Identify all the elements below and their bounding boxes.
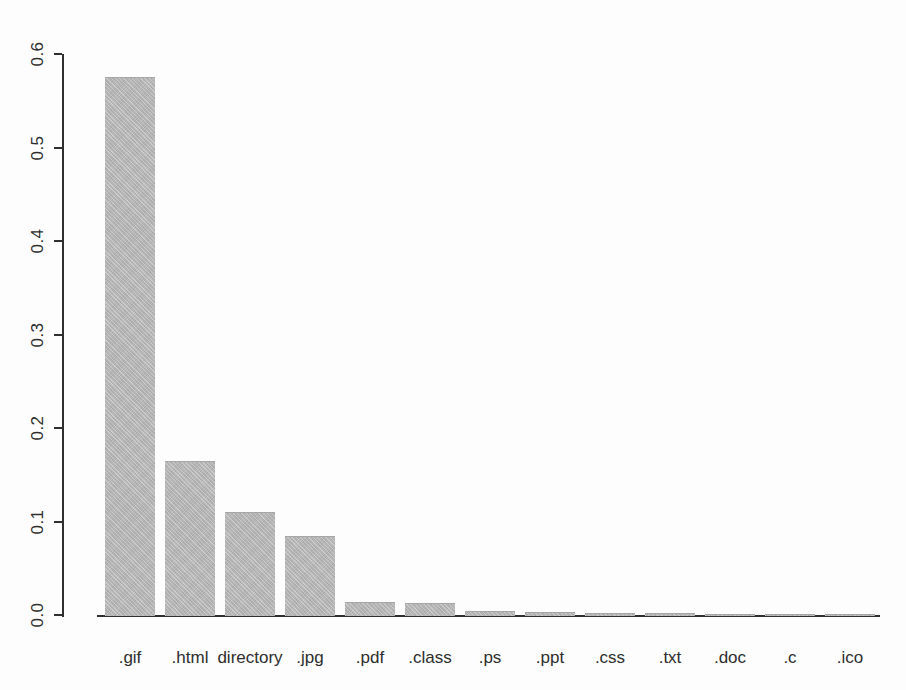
x-label-gif: .gif (119, 648, 142, 668)
y-tick-0.0 (54, 614, 62, 616)
bar-txt (645, 613, 695, 616)
y-tick-label: 0.1 (28, 509, 48, 534)
y-tick-label: 0.0 (28, 602, 48, 627)
bar-ico (825, 614, 875, 616)
bar-ppt (525, 612, 575, 616)
bar-html (165, 461, 215, 616)
y-tick-0.3 (54, 334, 62, 336)
bar-chart: 0.00.10.20.30.40.50.6 .gif.htmldirectory… (0, 0, 906, 690)
y-tick-label: 0.6 (28, 41, 48, 66)
x-label-ps: .ps (479, 648, 502, 668)
x-label-css: .css (595, 648, 625, 668)
x-label-doc: .doc (714, 648, 746, 668)
y-tick-label: 0.3 (28, 322, 48, 347)
bar-css (585, 613, 635, 616)
y-tick-label: 0.5 (28, 135, 48, 160)
bar-jpg (285, 536, 335, 616)
bar-class (405, 603, 455, 616)
bar-c (765, 614, 815, 616)
y-tick-0.2 (54, 427, 62, 429)
bar-directory (225, 512, 275, 616)
y-tick-0.6 (54, 53, 62, 55)
x-label-class: .class (408, 648, 451, 668)
x-label-c: .c (783, 648, 796, 668)
x-label-jpg: .jpg (296, 648, 323, 668)
y-tick-0.1 (54, 521, 62, 523)
x-label-pdf: .pdf (356, 648, 384, 668)
y-tick-0.4 (54, 240, 62, 242)
y-axis-line (62, 54, 64, 617)
x-label-ppt: .ppt (536, 648, 564, 668)
y-tick-0.5 (54, 147, 62, 149)
bar-doc (705, 614, 755, 616)
x-label-txt: .txt (659, 648, 682, 668)
x-label-directory: directory (217, 648, 282, 668)
y-tick-label: 0.2 (28, 415, 48, 440)
bar-ps (465, 611, 515, 616)
bar-gif (105, 77, 155, 616)
y-tick-label: 0.4 (28, 228, 48, 253)
bar-pdf (345, 602, 395, 616)
x-label-ico: .ico (837, 648, 863, 668)
x-label-html: .html (172, 648, 209, 668)
